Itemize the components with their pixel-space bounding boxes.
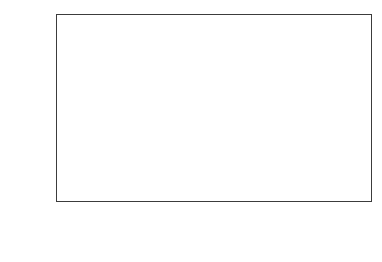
line-chart <box>0 0 382 262</box>
plot-frame <box>57 15 372 202</box>
chart-figure <box>0 0 382 262</box>
